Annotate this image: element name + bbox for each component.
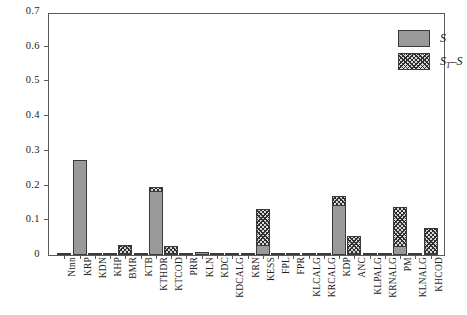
bar-segment-s [256,245,270,255]
bar-segment-s [149,191,163,255]
x-axis-tick-label: KTCOD [174,257,184,291]
bar-segment-st-minus-s [347,236,361,254]
legend-swatch-st-minus-s [398,53,430,70]
x-axis-tick-label: KTB [144,257,154,277]
y-axis-tick-label: 0.2 [26,178,40,191]
x-axis-tick-label: KRN [251,257,261,278]
x-axis-tick-label: FPL [281,257,291,274]
x-axis-tick-label: KRP [83,257,93,276]
bar-segment-s [73,160,87,255]
x-axis-tick-label: KHCOD [434,257,444,292]
legend-entry[interactable]: S [398,30,467,49]
x-axis-tick-label: KDN [98,257,108,278]
y-axis-tick: 0.4 [5,115,49,116]
y-axis-tick-label: 0.5 [26,73,40,86]
legend-label: ST–S [440,54,462,70]
x-axis-tick-label: KDCALG [235,257,245,298]
bar-segment-st-minus-s [393,207,407,247]
bar-segment-st-minus-s [118,245,132,254]
y-axis-tick: 0.3 [5,150,49,151]
bar-segment-s [393,246,407,255]
x-axis-tick-label: KHP [113,257,123,277]
x-axis-tick-label: KLN [205,257,215,277]
x-axis-tick-label: ANC [357,257,367,278]
x-axis-tick-label: KDP [342,257,352,277]
legend-entry[interactable]: ST–S [398,53,467,72]
bar-group [49,14,444,255]
y-axis-tick: 0.7 [5,11,49,12]
x-axis-tick-label: PRR [189,257,199,276]
x-axis-tick-label: KLNALG [418,257,428,297]
x-axis-tick-label: KTHDR [159,257,169,291]
y-axis-tick: 0 [5,254,49,255]
x-axis-tick-label: Ntnn [67,257,77,277]
y-axis-tick: 0.5 [5,80,49,81]
legend-swatch-s [398,30,430,47]
y-axis-tick-label: 0.1 [26,212,40,225]
bar-segment-st-minus-s [256,209,270,245]
plot-area: 00.10.20.30.40.50.60.7 SST–S [48,13,445,256]
x-axis-tick-label: KRNALG [388,257,398,298]
bar-segment-st-minus-s [424,228,438,254]
legend-label: S [440,31,446,46]
x-axis-tick-label: KDC [220,257,230,278]
bar-segment-st-minus-s [164,246,178,254]
bar-segment-st-minus-s [332,196,346,205]
x-axis-tick-label: KLCALG [312,257,322,297]
x-axis-tick-label: KLPALG [373,257,383,295]
bar-segment-s [332,205,346,255]
x-axis-tick-label: KRCALG [327,257,337,297]
y-axis-tick-label: 0.7 [26,4,40,17]
bar-segment-st-minus-s [149,187,163,192]
y-axis-tick: 0.1 [5,219,49,220]
x-axis-labels: NtnnKRPKDNKHPBMRKTBKTHDRKTCODPRRKLNKDCKD… [48,257,445,315]
x-axis-tick-label: PM [403,257,413,271]
y-axis-tick-label: 0.6 [26,39,40,52]
y-axis-tick-label: 0.4 [26,108,40,121]
y-axis-tick-label: 0 [34,247,40,260]
y-axis-tick-label: 0.3 [26,143,40,156]
y-axis-tick: 0.2 [5,185,49,186]
y-axis-tick: 0.6 [5,46,49,47]
x-axis-tick-label: FPR [296,257,306,275]
x-axis-tick-label: KESS [266,257,276,281]
x-axis-tick-label: BMR [128,257,138,279]
chart-legend: SST–S [398,30,467,76]
